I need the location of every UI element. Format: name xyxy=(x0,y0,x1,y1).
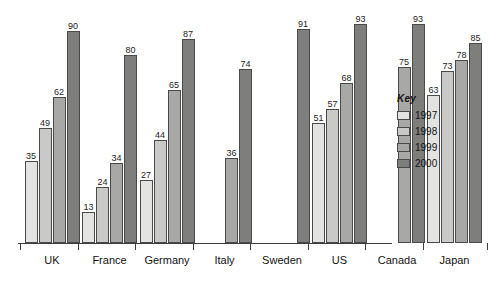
bar-slot: 44 xyxy=(153,8,167,243)
bar-value-label: 73 xyxy=(442,61,452,71)
legend-swatch-1997 xyxy=(397,111,410,120)
bar: 44 xyxy=(154,140,167,243)
bar-slot xyxy=(369,8,383,243)
bar: 91 xyxy=(297,29,310,243)
bar-slot: 35 xyxy=(24,8,38,243)
bar: 24 xyxy=(96,187,109,243)
x-axis-tick xyxy=(250,243,251,250)
legend-label: 1999 xyxy=(415,142,437,153)
x-axis-tick xyxy=(423,243,424,250)
x-axis-label: Sweden xyxy=(262,253,302,267)
bar: 27 xyxy=(140,180,153,243)
bar-value-label: 75 xyxy=(399,57,409,67)
bar: 35 xyxy=(25,161,38,243)
bar-slot: 80 xyxy=(124,8,138,243)
bar-slot: 36 xyxy=(225,8,239,243)
x-axis-tick xyxy=(308,243,309,250)
bar-slot: 27 xyxy=(139,8,153,243)
x-axis-label: Italy xyxy=(214,253,234,267)
bar: 68 xyxy=(340,83,353,243)
bar-slot: 51 xyxy=(312,8,326,243)
bar-slot: 62 xyxy=(52,8,66,243)
x-axis-tick xyxy=(135,243,136,250)
bar-slot: 57 xyxy=(326,8,340,243)
bar-value-label: 74 xyxy=(240,59,250,69)
legend-label: 2000 xyxy=(415,158,437,169)
bar: 36 xyxy=(225,158,238,243)
bar-slot: 65 xyxy=(167,8,181,243)
bar-group: 3674 xyxy=(197,8,253,243)
bar-slot: 85 xyxy=(469,8,483,243)
bar: 51 xyxy=(312,123,325,243)
bar-slot: 90 xyxy=(66,8,80,243)
bar-slot: 13 xyxy=(82,8,96,243)
bar-value-label: 90 xyxy=(68,21,78,31)
bar-value-label: 49 xyxy=(40,118,50,128)
x-axis-tick xyxy=(20,243,21,250)
bar: 13 xyxy=(82,212,95,243)
bar-value-label: 80 xyxy=(125,45,135,55)
bar-slot xyxy=(254,8,268,243)
bar: 90 xyxy=(67,31,80,243)
x-axis-label: France xyxy=(92,253,126,267)
x-axis-tick xyxy=(78,243,79,250)
bar-slot: 24 xyxy=(96,8,110,243)
bar: 93 xyxy=(354,24,367,243)
bar-slot: 49 xyxy=(38,8,52,243)
bar-slot: 74 xyxy=(239,8,253,243)
bar-slot: 87 xyxy=(181,8,195,243)
bar-value-label: 35 xyxy=(26,151,36,161)
legend-entry: 1999 xyxy=(397,142,451,153)
bar: 65 xyxy=(168,90,181,243)
legend-title: Key xyxy=(397,93,451,104)
bar-value-label: 65 xyxy=(169,80,179,90)
bar: 80 xyxy=(124,55,137,243)
bar: 74 xyxy=(239,69,252,243)
bar-value-label: 62 xyxy=(54,87,64,97)
x-axis-tick xyxy=(487,243,488,250)
x-axis-label: UK xyxy=(44,253,59,267)
bar-value-label: 24 xyxy=(97,177,107,187)
bar-group: 35496290 xyxy=(24,8,80,243)
legend-entry: 2000 xyxy=(397,158,451,169)
x-axis-tick xyxy=(193,243,194,250)
bar-slot: 78 xyxy=(455,8,469,243)
bar-slot: 91 xyxy=(296,8,310,243)
bar-value-label: 93 xyxy=(413,14,423,24)
bar-value-label: 87 xyxy=(183,29,193,39)
bar: 62 xyxy=(53,97,66,243)
bar-slot xyxy=(282,8,296,243)
bar-value-label: 44 xyxy=(155,130,165,140)
bar: 49 xyxy=(39,128,52,243)
x-axis-label: Germany xyxy=(144,253,189,267)
bar-slot xyxy=(197,8,211,243)
bar-group: 27446587 xyxy=(139,8,195,243)
bar: 87 xyxy=(182,39,195,243)
legend: Key 1997199819992000 xyxy=(397,93,451,174)
bar-slot: 93 xyxy=(354,8,368,243)
legend-swatch-1999 xyxy=(397,143,410,152)
bar-group: 51576893 xyxy=(312,8,368,243)
bar-value-label: 91 xyxy=(298,19,308,29)
bar: 57 xyxy=(326,109,339,243)
legend-swatch-1998 xyxy=(397,127,410,136)
bar-slot: 68 xyxy=(340,8,354,243)
bar-group: 13243480 xyxy=(82,8,138,243)
bar-slot xyxy=(383,8,397,243)
plot-area: 3549629013243480274465873674915157689375… xyxy=(18,8,386,243)
bar-value-label: 51 xyxy=(313,113,323,123)
bar: 34 xyxy=(110,163,123,243)
bar-value-label: 57 xyxy=(327,99,337,109)
bar-value-label: 36 xyxy=(226,148,236,158)
bar-slot xyxy=(211,8,225,243)
legend-entries: 1997199819992000 xyxy=(397,110,451,169)
legend-swatch-2000 xyxy=(397,159,410,168)
bar-value-label: 27 xyxy=(141,170,151,180)
legend-label: 1997 xyxy=(415,110,437,121)
bar-group: 91 xyxy=(254,8,310,243)
bar: 85 xyxy=(469,43,482,243)
legend-entry: 1998 xyxy=(397,126,451,137)
bar-value-label: 93 xyxy=(355,14,365,24)
x-axis-label: Japan xyxy=(440,253,470,267)
